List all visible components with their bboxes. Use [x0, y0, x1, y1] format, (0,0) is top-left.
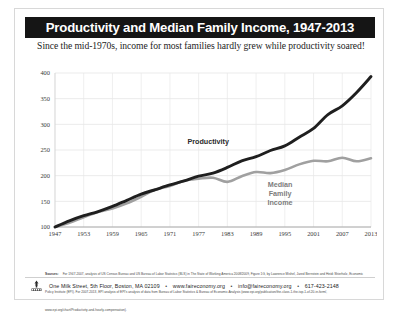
footer-phone: 617-423-2148 — [305, 283, 339, 289]
y-tick-400: 400 — [40, 69, 50, 76]
source-label: Sources: — [45, 272, 59, 276]
x-tick-2007: 2007 — [336, 230, 350, 237]
series-line-productivity — [55, 77, 371, 227]
y-tick-150: 150 — [40, 198, 50, 205]
footer-separator-1: • — [161, 283, 171, 289]
footer-address: One Milk Street, 5th Floor, Boston, MA 0… — [49, 283, 160, 289]
x-tick-1983: 1983 — [221, 230, 234, 237]
y-axis-tick-labels: 100150200250300350400 — [40, 69, 50, 230]
chart-container: 100150200250300350400 194719531959196519… — [23, 59, 377, 259]
series-label-median-family-income-line-1: Median — [268, 180, 293, 189]
x-tick-1989: 1989 — [250, 230, 263, 237]
subtitle: Since the mid-1970s, income for most fam… — [26, 40, 376, 51]
x-tick-1977: 1977 — [192, 230, 206, 237]
x-tick-2001: 2001 — [307, 230, 320, 237]
page-title: Productivity and Median Family Income, 1… — [46, 20, 354, 35]
grid-lines — [55, 73, 371, 227]
x-tick-2013: 2013 — [365, 230, 377, 237]
x-tick-1959: 1959 — [106, 230, 119, 237]
footer-contact-info: One Milk Street, 5th Floor, Boston, MA 0… — [49, 283, 339, 289]
x-tick-1995: 1995 — [278, 230, 291, 237]
x-axis-tick-labels: 1947195319591965197119771983198919952001… — [49, 230, 377, 237]
footer-email[interactable]: info@faireconomy.org — [238, 283, 292, 289]
y-tick-200: 200 — [40, 172, 50, 179]
series-paths — [55, 77, 371, 227]
line-chart: 100150200250300350400 194719531959196519… — [23, 59, 377, 259]
series-label-median-family-income-line-3: Income — [267, 198, 292, 207]
x-tick-1965: 1965 — [135, 230, 148, 237]
series-line-median-family-income — [55, 158, 371, 227]
x-tick-1971: 1971 — [164, 230, 177, 237]
series-label-productivity: Productivity — [187, 137, 229, 146]
footer-website[interactable]: www.faireconomy.org — [173, 283, 225, 289]
poster-card: Productivity and Median Family Income, 1… — [14, 8, 384, 300]
united-for-a-fair-economy-logo — [29, 279, 44, 293]
footer-bar: One Milk Street, 5th Floor, Boston, MA 0… — [25, 277, 375, 294]
series-label-median-family-income-line-2: Family — [269, 189, 292, 198]
x-tick-1953: 1953 — [77, 230, 90, 237]
x-tick-1947: 1947 — [49, 230, 63, 237]
y-tick-350: 350 — [40, 95, 50, 102]
y-tick-300: 300 — [40, 121, 50, 128]
y-tick-250: 250 — [40, 146, 50, 153]
title-bar: Productivity and Median Family Income, 1… — [25, 17, 375, 38]
footer-separator-2: • — [227, 283, 237, 289]
footer-separator-3: • — [293, 283, 303, 289]
